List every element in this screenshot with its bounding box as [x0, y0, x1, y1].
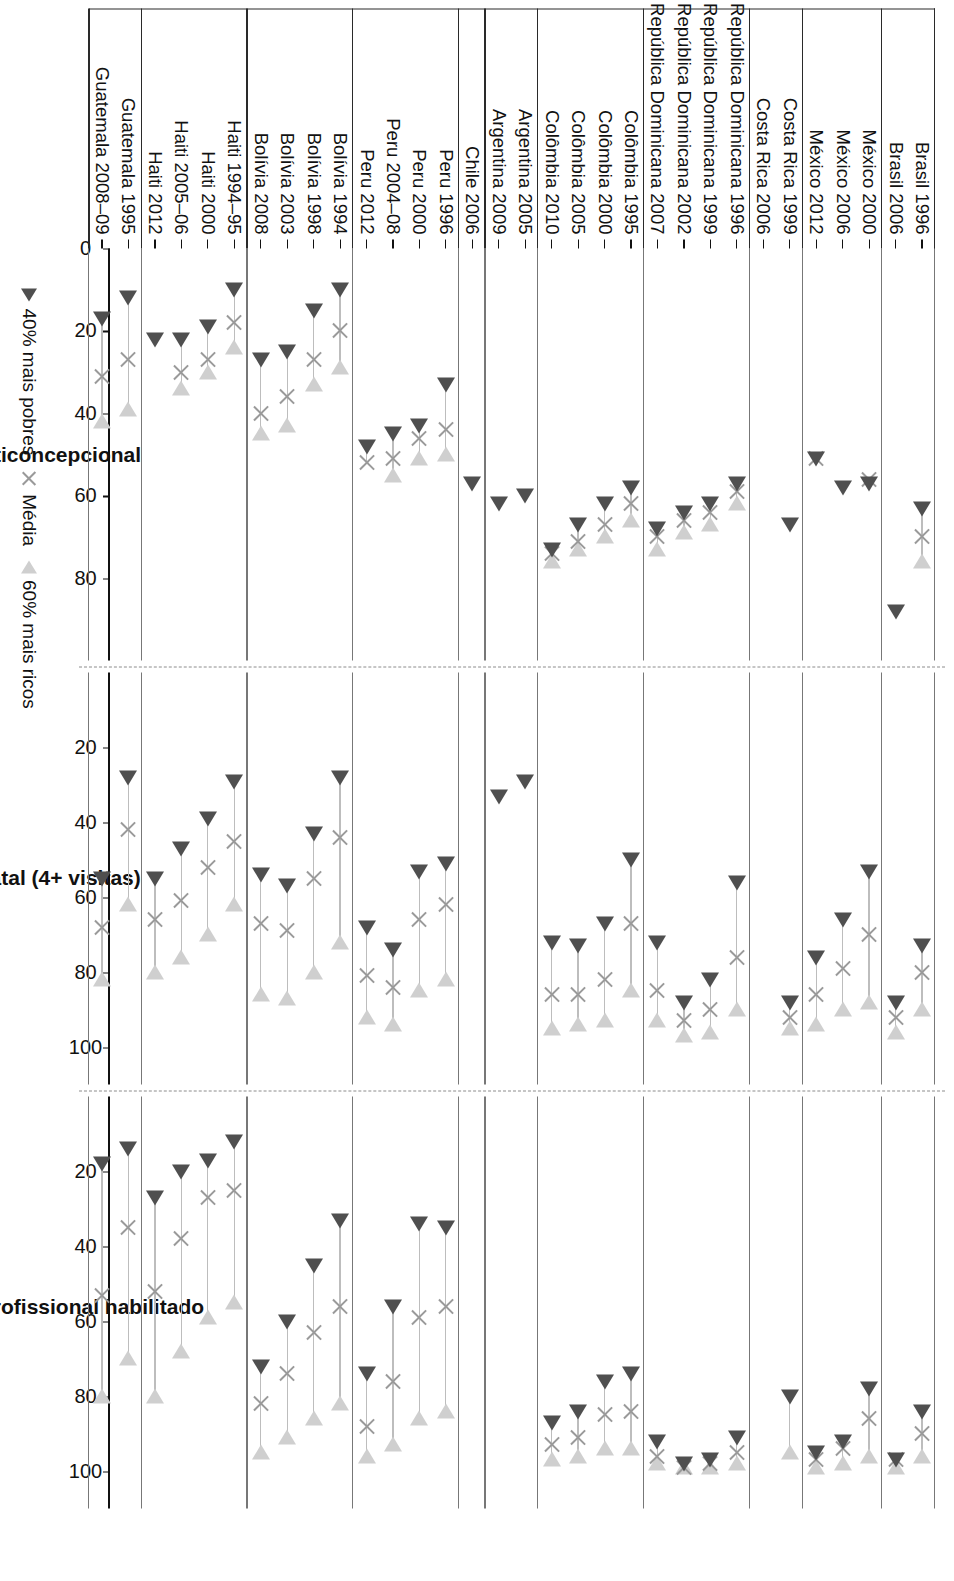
panel-divider: [79, 1090, 945, 1091]
triangle-right-dark-icon: [358, 439, 376, 454]
x-mark-icon: [595, 969, 615, 989]
marker-poorest: [225, 774, 243, 789]
triangle-left-light-icon: [410, 982, 428, 997]
marker-richest: [120, 896, 138, 911]
triangle-left-light-icon: [701, 1024, 719, 1039]
triangle-right-dark-icon: [93, 871, 111, 886]
marker-poorest: [860, 1381, 878, 1396]
marker-richest: [807, 1016, 825, 1031]
x-mark-icon: [92, 366, 112, 386]
x-mark-icon: [568, 1427, 588, 1447]
triangle-left-light-icon: [225, 339, 243, 354]
x-mark-icon: [304, 349, 324, 369]
triangle-right-dark-icon: [701, 972, 719, 987]
x-mark-icon: [277, 920, 297, 940]
axis-tick-label: 60: [74, 475, 97, 515]
marker-poorest: [860, 476, 878, 491]
marker-poorest: [675, 505, 693, 520]
marker-mean: [119, 1217, 139, 1237]
marker-richest: [622, 512, 640, 527]
marker-mean: [383, 977, 403, 997]
marker-mean: [357, 1416, 377, 1436]
marker-richest: [596, 1440, 614, 1455]
marker-richest: [305, 1410, 323, 1425]
marker-mean: [277, 920, 297, 940]
triangle-left-light-icon: [252, 986, 270, 1001]
marker-mean: [357, 965, 377, 985]
marker-poorest: [252, 1359, 270, 1374]
marker-richest: [437, 971, 455, 986]
triangle-right-dark-icon: [701, 1452, 719, 1467]
marker-poorest: [701, 496, 719, 511]
triangle-left-light-icon: [225, 896, 243, 911]
triangle-right-dark-icon: [172, 1164, 190, 1179]
marker-richest: [410, 1410, 428, 1425]
marker-poorest: [807, 950, 825, 965]
marker-poorest: [781, 995, 799, 1010]
triangle-right-dark-icon: [834, 1434, 852, 1449]
triangle-left-light-icon: [93, 971, 111, 986]
range-connector: [445, 863, 446, 979]
group-separator: [749, 1096, 750, 1508]
marker-mean: [674, 1010, 694, 1030]
triangle-right-dark-icon: [199, 1153, 217, 1168]
triangle-left-light-icon: [305, 1410, 323, 1425]
marker-mean: [198, 349, 218, 369]
triangle-right-dark-icon: [649, 521, 667, 536]
marker-richest: [305, 376, 323, 391]
marker-mean: [833, 958, 853, 978]
triangle-right-dark-icon: [278, 344, 296, 359]
triangle-left-light-icon: [569, 1448, 587, 1463]
marker-mean: [436, 1296, 456, 1316]
x-mark-icon: [251, 403, 271, 423]
x-mark-icon: [277, 1363, 297, 1383]
triangle-left-light-icon: [860, 1448, 878, 1463]
marker-mean: [330, 827, 350, 847]
marker-richest: [622, 1440, 640, 1455]
triangle-right-dark-icon: [146, 871, 164, 886]
marker-mean: [859, 1408, 879, 1428]
marker-poorest: [543, 1415, 561, 1430]
triangle-left-light-icon: [569, 1016, 587, 1031]
group-separator: [537, 672, 538, 1084]
triangle-left-light-icon: [913, 553, 931, 568]
triangle-right-dark-icon: [913, 1404, 931, 1419]
marker-poorest: [569, 1404, 587, 1419]
marker-poorest: [93, 1156, 111, 1171]
triangle-right-dark-icon: [887, 1452, 905, 1467]
x-mark-icon: [330, 320, 350, 340]
marker-poorest: [569, 938, 587, 953]
range-connector: [445, 1227, 446, 1411]
marker-poorest: [728, 476, 746, 491]
marker-richest: [225, 339, 243, 354]
triangle-right-dark-icon: [860, 1381, 878, 1396]
x-mark-icon: [357, 1416, 377, 1436]
group-separator: [484, 1096, 485, 1508]
marker-richest: [834, 1001, 852, 1016]
triangle-right-dark-icon: [331, 282, 349, 297]
marker-richest: [93, 413, 111, 428]
marker-poorest: [410, 864, 428, 879]
panel-divider: [79, 666, 945, 667]
triangle-right-dark-icon: [516, 774, 534, 789]
marker-mean: [304, 349, 324, 369]
triangle-right-dark-icon: [781, 1389, 799, 1404]
marker-mean: [304, 1322, 324, 1342]
triangle-right-dark-icon: [490, 496, 508, 511]
group-separator: [88, 672, 89, 1084]
triangle-right-dark-icon: [146, 332, 164, 347]
triangle-left-light-icon: [384, 1016, 402, 1031]
marker-poorest: [199, 1153, 217, 1168]
range-connector: [128, 1148, 129, 1358]
triangle-right-dark-icon: [437, 377, 455, 392]
x-mark-icon: [833, 958, 853, 978]
group-separator: [881, 1096, 882, 1508]
marker-poorest: [146, 1190, 164, 1205]
marker-poorest: [331, 770, 349, 785]
triangle-right-dark-icon: [913, 501, 931, 516]
x-mark-icon: [20, 469, 38, 487]
triangle-left-light-icon: [358, 1448, 376, 1463]
marker-richest: [146, 1388, 164, 1403]
triangle-right-dark-icon: [834, 480, 852, 495]
marker-poorest: [622, 852, 640, 867]
